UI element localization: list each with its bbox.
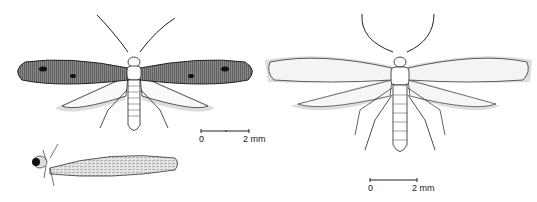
- scale-right-end-label: 2 mm: [412, 183, 435, 193]
- larva: [32, 144, 178, 186]
- moth-right: [265, 14, 532, 152]
- scale-right-start-label: 0: [368, 183, 373, 193]
- scale-bar-left: [201, 129, 249, 133]
- scale-left-start-label: 0: [199, 134, 204, 144]
- illustration-figure: 0 2 mm 0 2 mm: [0, 0, 537, 202]
- moth-left: [18, 15, 253, 131]
- scale-bar-right: [370, 178, 417, 182]
- scale-left-end-label: 2 mm: [243, 134, 266, 144]
